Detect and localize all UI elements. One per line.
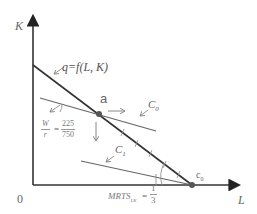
diagram-canvas <box>0 0 257 214</box>
angle-arc-c0 <box>60 104 62 112</box>
point-c0 <box>189 182 195 188</box>
point-a <box>96 111 102 117</box>
isocost-c1-label: C1 <box>115 144 126 158</box>
price-ratio-equals: = <box>54 125 59 134</box>
c0-pointer-icon <box>140 110 148 116</box>
point-c0-label: c0 <box>196 170 203 182</box>
c1-pointer-icon <box>106 156 114 162</box>
y-axis-label: K <box>15 20 23 32</box>
isocost-c0-label: C0 <box>148 99 159 113</box>
price-ratio-rhs: 225 750 <box>61 120 75 139</box>
isoquant-label: q=f(L, K) <box>62 61 108 73</box>
mrts-value: 1 3 <box>150 184 157 205</box>
origin-label: 0 <box>17 193 23 205</box>
point-a-label: a <box>100 92 107 105</box>
price-ratio-lhs: W r <box>41 120 50 139</box>
production-diagram: K L 0 q=f(L, K) a c0 C0 C1 W r = 225 750… <box>0 0 257 214</box>
mrts-equals: = <box>142 192 147 201</box>
mrts-text: MRTSLK <box>108 192 137 203</box>
price-ratio-pointer-icon <box>50 105 60 112</box>
x-axis-label: L <box>238 194 245 206</box>
isoquant-ticks <box>121 129 180 178</box>
